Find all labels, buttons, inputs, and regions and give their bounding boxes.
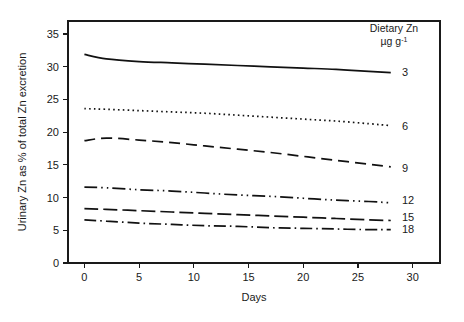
x-tick-label: 25	[352, 271, 364, 283]
legend-title-line1: Dietary Zn	[370, 22, 419, 34]
y-tick-label: 0	[53, 257, 59, 269]
line-chart: 05101520253035 051015202530 369121518 Di…	[0, 0, 464, 322]
x-tick-label: 20	[297, 271, 309, 283]
y-tick-label: 25	[47, 93, 59, 105]
x-tick-label: 5	[136, 271, 142, 283]
x-axis-title: Days	[241, 291, 267, 303]
figure-root: 05101520253035 051015202530 369121518 Di…	[0, 0, 464, 322]
x-tick-label: 10	[188, 271, 200, 283]
x-tick-label: 30	[407, 271, 419, 283]
y-tick-label: 15	[47, 159, 59, 171]
x-tick-label: 15	[242, 271, 254, 283]
series-label-6: 6	[402, 120, 408, 132]
series-label-3: 3	[402, 66, 408, 78]
chart-background	[0, 0, 464, 322]
y-tick-label: 20	[47, 126, 59, 138]
y-tick-label: 35	[47, 28, 59, 40]
series-label-12: 12	[402, 194, 414, 206]
x-tick-label: 0	[81, 271, 87, 283]
y-tick-label: 30	[47, 61, 59, 73]
series-label-15: 15	[402, 211, 414, 223]
series-label-18: 18	[402, 223, 414, 235]
y-axis-title: Urinary Zn as % of total Zn excretion	[16, 53, 28, 232]
y-tick-label: 5	[53, 224, 59, 236]
series-label-9: 9	[402, 162, 408, 174]
legend-units-exponent: -1	[401, 36, 407, 43]
legend-units-text: µg g	[381, 35, 402, 47]
y-tick-label: 10	[47, 192, 59, 204]
